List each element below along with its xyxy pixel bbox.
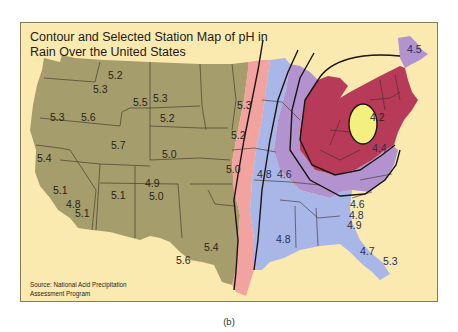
map-title: Contour and Selected Station Map of pH i…	[30, 30, 290, 60]
station-label: 5.0	[162, 148, 177, 160]
station-label: 4.9	[347, 219, 362, 231]
station-label: 5.2	[231, 129, 246, 141]
station-label: 5.1	[111, 189, 126, 201]
station-label: 5.3	[50, 111, 65, 123]
station-label: 5.5	[133, 96, 148, 108]
station-label: 4.6	[277, 168, 292, 180]
station-label: 5.4	[204, 241, 219, 253]
station-label: 4.4	[372, 142, 387, 154]
station-label: 5.0	[226, 163, 241, 175]
station-label: 5.6	[81, 111, 96, 123]
source-line-2: Assessment Program	[30, 289, 127, 298]
station-label: 5.3	[383, 255, 398, 267]
station-label: 5.3	[153, 92, 168, 104]
station-label: 5.6	[176, 254, 191, 266]
station-label: 5.4	[37, 152, 52, 164]
station-label: 5.7	[111, 139, 126, 151]
station-label: 4.9	[145, 177, 160, 189]
station-label: 4.7	[360, 245, 375, 257]
title-line-1: Contour and Selected Station Map of pH i…	[30, 30, 290, 45]
station-label: 4.2	[370, 111, 385, 123]
station-label: 5.2	[160, 112, 175, 124]
station-label: 4.8	[276, 233, 291, 245]
title-line-2: Rain Over the United States	[30, 45, 290, 60]
station-label: 5.1	[53, 184, 68, 196]
station-label: 5.3	[237, 99, 252, 111]
station-label: 5.2	[108, 69, 123, 81]
station-label: 5.3	[93, 83, 108, 95]
source-line-1: Source: National Acid Precipitation	[30, 280, 127, 289]
station-label: 4.5	[407, 43, 422, 55]
station-label: 4.8	[257, 168, 272, 180]
station-label: 5.1	[75, 207, 90, 219]
figure-caption: (b)	[0, 316, 458, 327]
zone-ph-4-2	[349, 104, 377, 144]
station-label: 5.0	[149, 190, 164, 202]
source-note: Source: National Acid Precipitation Asse…	[30, 280, 127, 298]
